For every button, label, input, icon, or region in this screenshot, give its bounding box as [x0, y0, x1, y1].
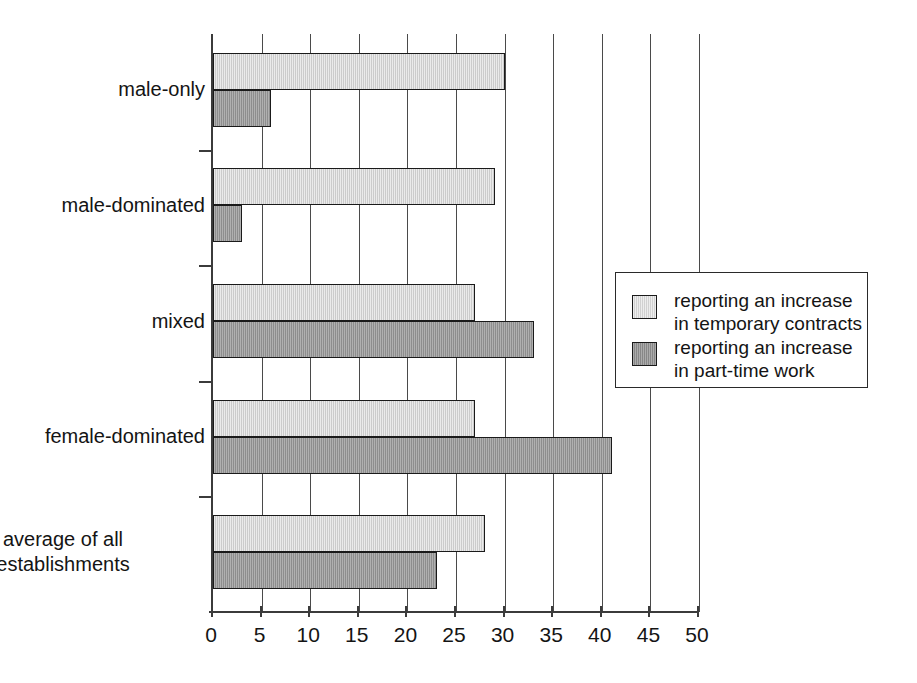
x-axis-tick — [357, 606, 359, 617]
category-label: male-only — [0, 77, 205, 102]
y-axis-group-tick — [199, 150, 211, 152]
x-axis-tick — [648, 606, 650, 617]
x-axis-tick — [697, 606, 699, 617]
x-axis-tick — [211, 606, 213, 617]
x-axis-tick-label: 50 — [667, 622, 727, 647]
gridline — [553, 34, 554, 612]
legend-item-part-time-work: reporting an increase in part-time work — [632, 336, 853, 382]
bar — [213, 90, 271, 127]
legend-label-temporary-contracts: reporting an increase in temporary contr… — [674, 289, 862, 335]
bar — [213, 53, 505, 90]
bar — [213, 552, 437, 589]
category-label: female-dominated — [0, 424, 205, 449]
x-axis-tick — [454, 606, 456, 617]
bar — [213, 515, 485, 552]
category-label: male-dominated — [0, 193, 205, 218]
category-label: mixed — [0, 309, 205, 334]
gridline — [602, 34, 603, 612]
legend-swatch-light-icon — [632, 295, 657, 319]
legend: reporting an increase in temporary contr… — [615, 272, 868, 388]
bar-chart: 05101520253035404550 male-onlymale-domin… — [0, 0, 917, 683]
y-axis-group-tick — [199, 265, 211, 267]
x-axis-tick — [600, 606, 602, 617]
y-axis-group-tick — [199, 496, 211, 498]
bar — [213, 284, 475, 321]
bar — [213, 168, 495, 205]
x-axis-tick — [551, 606, 553, 617]
bar — [213, 400, 475, 437]
bar — [213, 321, 534, 358]
x-axis-tick — [260, 606, 262, 617]
x-axis-tick — [503, 606, 505, 617]
x-axis-tick — [405, 606, 407, 617]
bar — [213, 437, 612, 474]
y-axis-group-tick — [199, 381, 211, 383]
bar — [213, 205, 242, 242]
legend-swatch-dark-icon — [632, 342, 657, 366]
category-label: average of all establishments — [0, 527, 213, 577]
legend-label-part-time-work: reporting an increase in part-time work — [674, 336, 853, 382]
x-axis-tick — [308, 606, 310, 617]
legend-item-temporary-contracts: reporting an increase in temporary contr… — [632, 289, 862, 335]
